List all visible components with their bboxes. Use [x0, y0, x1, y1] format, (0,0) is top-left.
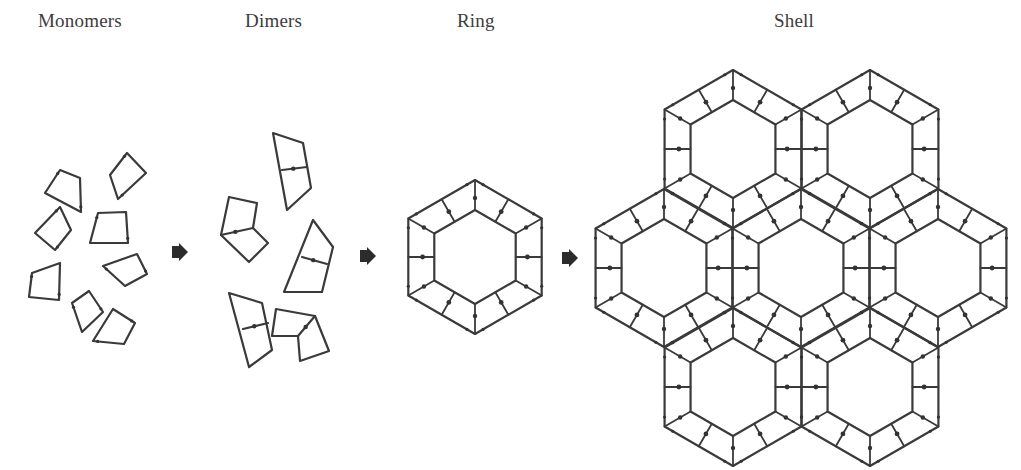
dimer-unit — [273, 133, 311, 210]
binding-site-dot — [746, 296, 750, 300]
binding-site-dot — [813, 385, 818, 390]
subunit-boundary — [733, 229, 759, 244]
binding-site-dot — [860, 222, 863, 225]
subunit-boundary — [912, 412, 938, 427]
binding-site-dot — [997, 222, 1000, 225]
binding-site-dot — [56, 245, 59, 248]
binding-site-dot — [784, 116, 788, 120]
binding-site-dot — [415, 299, 418, 302]
binding-site-dot — [937, 415, 940, 418]
binding-site-dot — [96, 340, 99, 343]
binding-site-dot — [252, 324, 256, 328]
shell-ring-inner-edge — [759, 219, 844, 317]
binding-site-dot — [602, 311, 605, 314]
shell-ring-center — [731, 189, 871, 347]
binding-site-dot — [868, 208, 872, 212]
binding-site-dot — [678, 116, 682, 120]
binding-site-dot — [121, 194, 124, 197]
assembly-diagram — [0, 0, 1021, 470]
binding-site-dot — [499, 300, 504, 305]
binding-site-dot — [55, 209, 58, 212]
binding-site-dot — [30, 275, 33, 278]
subunit-boundary — [802, 110, 828, 125]
binding-site-dot — [800, 355, 803, 358]
shell-ring-bottom-left — [663, 308, 803, 466]
binding-site-dot — [144, 269, 147, 272]
binding-site-dot — [937, 177, 940, 180]
subunit-boundary — [665, 110, 691, 125]
binding-site-dot — [126, 237, 129, 240]
binding-site-dot — [420, 255, 425, 260]
binding-site-dot — [808, 103, 811, 106]
binding-site-dot — [291, 166, 295, 170]
binding-site-dot — [877, 311, 880, 314]
binding-site-dot — [895, 338, 900, 343]
binding-site-dot — [704, 193, 709, 198]
subunit-boundary — [912, 174, 938, 189]
binding-site-dot — [689, 312, 694, 317]
arrow-right-icon — [172, 243, 188, 261]
subunit-boundary — [870, 229, 896, 244]
shell-group — [594, 70, 1008, 466]
binding-site-dot — [731, 446, 735, 450]
subunit-boundary — [665, 348, 691, 363]
binding-site-dot — [922, 385, 927, 390]
binding-site-dot — [662, 205, 666, 209]
subunit-boundary — [775, 174, 801, 189]
arrow-right-icon — [562, 249, 578, 267]
binding-site-dot — [731, 86, 735, 90]
shell-ring-left — [594, 189, 734, 347]
binding-site-dot — [877, 460, 880, 463]
subunit-boundary — [706, 229, 732, 244]
dimer-unit — [229, 293, 272, 367]
subunit-boundary — [733, 293, 759, 308]
binding-site-dot — [868, 296, 871, 299]
monomer-subunit — [110, 153, 146, 199]
binding-site-dot — [704, 431, 709, 436]
binding-site-dot — [532, 212, 535, 215]
arrow-right-icon — [360, 247, 376, 265]
shell-ring-top-left — [663, 70, 803, 228]
binding-site-dot — [689, 219, 694, 224]
binding-site-dot — [860, 460, 863, 463]
subunit-boundary — [408, 281, 434, 296]
subunit-boundary — [802, 412, 828, 427]
shell-ring-bottom-right — [800, 308, 940, 466]
binding-site-dot — [422, 284, 426, 288]
binding-site-dot — [740, 73, 743, 76]
binding-site-dot — [853, 266, 858, 271]
binding-site-dot — [989, 296, 993, 300]
binding-site-dot — [784, 354, 788, 358]
binding-site-dot — [929, 430, 932, 433]
binding-site-dot — [792, 103, 795, 106]
binding-site-dot — [663, 177, 666, 180]
binding-site-dot — [723, 73, 726, 76]
binding-site-dot — [233, 230, 237, 234]
shell-ring-inner-edge — [828, 338, 913, 436]
binding-site-dot — [785, 385, 790, 390]
binding-site-dot — [881, 266, 886, 271]
binding-site-dot — [963, 312, 968, 317]
binding-site-dot — [671, 341, 674, 344]
binding-site-dot — [662, 327, 666, 331]
binding-site-dot — [758, 100, 763, 105]
binding-site-dot — [407, 226, 410, 229]
binding-site-dot — [723, 311, 726, 314]
binding-site-dot — [800, 177, 803, 180]
binding-site-dot — [841, 431, 846, 436]
shell-ring-inner-edge — [691, 338, 776, 436]
binding-site-dot — [921, 415, 925, 419]
subunit-boundary — [665, 412, 691, 427]
subunit-boundary — [775, 412, 801, 427]
binding-site-dot — [852, 235, 856, 239]
binding-site-dot — [808, 192, 811, 195]
binding-site-dot — [663, 415, 666, 418]
binding-site-dot — [772, 219, 777, 224]
binding-site-dot — [876, 222, 879, 225]
binding-site-dot — [723, 460, 726, 463]
binding-site-dot — [800, 117, 803, 120]
monomer-subunit — [103, 254, 147, 286]
shell-ring-right — [868, 189, 1008, 347]
binding-site-dot — [715, 296, 719, 300]
binding-site-dot — [815, 415, 819, 419]
